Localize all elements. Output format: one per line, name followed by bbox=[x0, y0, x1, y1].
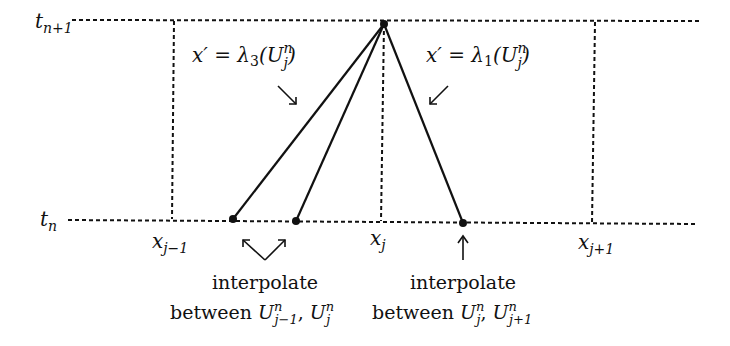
foot-point-3 bbox=[459, 219, 467, 227]
characteristics-diagram: tn+1 tn xj−1 xj xj+1 x′ = λ3(Unj) x′ = λ… bbox=[0, 0, 730, 346]
arrow-up-right-icon bbox=[458, 236, 468, 260]
label-x-j-minus-1: xj−1 bbox=[152, 229, 188, 256]
apex-point bbox=[380, 20, 388, 28]
label-x-j-plus-1: xj+1 bbox=[578, 230, 614, 257]
grid-line-left bbox=[172, 21, 174, 219]
label-x-j: xj bbox=[370, 226, 386, 253]
time-line-bottom bbox=[68, 220, 698, 224]
annotation-left-line1: interpolate bbox=[212, 271, 318, 293]
annotation-right-line2: between Unj, Unj+1 bbox=[372, 299, 532, 327]
grid-line-center bbox=[381, 24, 384, 221]
label-t-n: tn bbox=[40, 207, 57, 234]
label-t-n-plus-1: tn+1 bbox=[35, 9, 73, 36]
arrow-pair-left-icon bbox=[243, 240, 285, 260]
foot-point-1 bbox=[229, 215, 237, 223]
arrow-to-lambda1-icon bbox=[430, 86, 448, 104]
label-lambda3-characteristic: x′ = λ3(Unj) bbox=[192, 40, 296, 71]
annotation-left-line2: between Unj−1, Unj bbox=[170, 299, 334, 327]
arrow-to-lambda3-icon bbox=[278, 86, 296, 104]
label-lambda1-characteristic: x′ = λ1(Unj) bbox=[426, 40, 530, 71]
annotation-right-line1: interpolate bbox=[410, 271, 516, 293]
foot-point-2 bbox=[292, 217, 300, 225]
characteristic-line-lambda3-b bbox=[296, 24, 384, 221]
grid-line-right bbox=[592, 22, 595, 223]
